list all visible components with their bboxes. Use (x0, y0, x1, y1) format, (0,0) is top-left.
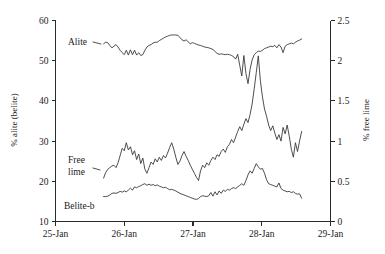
y-tick-label-left: 40 (39, 96, 49, 106)
y-tick-label-left: 20 (39, 177, 49, 187)
x-tick-label: 26-Jan (112, 229, 138, 239)
x-tick-label: 27-Jan (180, 229, 206, 239)
chart-background (0, 0, 385, 254)
x-tick-label: 25-Jan (43, 229, 69, 239)
series-label-free-lime-line1: Free (68, 155, 85, 165)
y-tick-label-right: 1.5 (338, 96, 350, 106)
series-label-free-lime-line2: lime (68, 167, 85, 177)
y-tick-label-right: 1 (338, 137, 343, 147)
line-chart-figure: 10203040506000.511.522.525-Jan26-Jan27-J… (0, 0, 385, 254)
y-tick-label-left: 10 (39, 217, 49, 227)
y-tick-label-right: 2 (338, 56, 343, 66)
y-tick-label-left: 60 (39, 16, 49, 26)
y-axis-left-title: % alite (belite) (9, 93, 19, 146)
series-label-belite-b: Belite-b (64, 201, 95, 211)
x-tick-label: 29-Jan (318, 229, 344, 239)
y-tick-label-left: 50 (39, 56, 49, 66)
y-tick-label-left: 30 (39, 137, 49, 147)
chart-container: 10203040506000.511.522.525-Jan26-Jan27-J… (0, 0, 385, 254)
y-tick-label-right: 2.5 (338, 16, 350, 26)
x-tick-label: 28-Jan (249, 229, 275, 239)
y-axis-right-title: % free lime (361, 99, 371, 141)
series-label-alite: Alite (68, 37, 87, 47)
y-tick-label-right: 0 (338, 217, 343, 227)
y-tick-label-right: 0.5 (338, 177, 350, 187)
